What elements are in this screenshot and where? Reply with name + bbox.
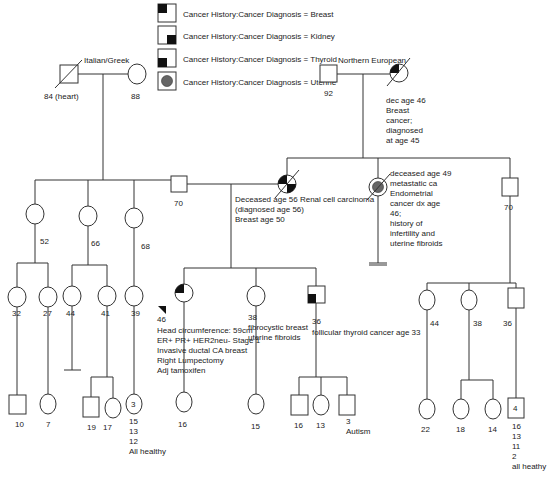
cousin-39: 39 xyxy=(125,286,143,395)
child-15: 15 xyxy=(248,394,264,431)
legend-label: Cancer History:Cancer Diagnosis = Kidney xyxy=(183,32,335,41)
svg-text:70: 70 xyxy=(504,203,513,212)
svg-text:38: 38 xyxy=(473,319,482,328)
svg-text:fibrocystic breast: fibrocystic breast xyxy=(248,323,309,332)
proband-46: 46 Head circumference: 59cm ER+ PR+ HER2… xyxy=(157,284,261,395)
svg-text:follicular thyroid cancer age: follicular thyroid cancer age 33 xyxy=(312,328,421,337)
svg-text:12: 12 xyxy=(129,437,138,446)
svg-text:68: 68 xyxy=(141,242,150,251)
child-10: 10 xyxy=(9,395,26,429)
legend-item-thyroid: Cancer History:Cancer Diagnosis = Thyroi… xyxy=(158,49,337,67)
svg-text:diagnosed: diagnosed xyxy=(386,126,423,135)
proband-arrow-icon xyxy=(158,306,166,314)
svg-text:all heathy: all heathy xyxy=(512,462,546,471)
svg-text:uterine fibroids: uterine fibroids xyxy=(248,333,300,342)
svg-text:Endometrial: Endometrial xyxy=(390,189,433,198)
legend-item-kidney: Cancer History:Cancer Diagnosis = Kidney xyxy=(158,26,335,44)
paternal-grandfather: 84 (heart) xyxy=(44,60,82,101)
svg-text:cancer dx age: cancer dx age xyxy=(390,199,441,208)
svg-text:38: 38 xyxy=(248,313,257,322)
legend: Cancer History:Cancer Diagnosis = Breast… xyxy=(158,4,337,90)
svg-text:11: 11 xyxy=(512,442,521,451)
svg-text:7: 7 xyxy=(46,420,51,429)
svg-text:cancer;: cancer; xyxy=(386,116,412,125)
paternal-grandmother: 88 xyxy=(128,64,146,101)
svg-text:13: 13 xyxy=(512,432,521,441)
svg-text:36: 36 xyxy=(503,319,512,328)
legend-item-breast: Cancer History:Cancer Diagnosis = Breast xyxy=(158,4,334,22)
cousin-38-maternal: 38 xyxy=(461,290,482,380)
svg-text:66: 66 xyxy=(91,239,100,248)
svg-text:19: 19 xyxy=(87,423,96,432)
svg-text:15: 15 xyxy=(251,422,260,431)
maternal-grandmother: dec age 46 Breast cancer; diagnosed at a… xyxy=(386,58,426,145)
cousin-44-no-children: 44 xyxy=(63,286,81,370)
cousin-44-maternal: 44 xyxy=(419,290,439,400)
svg-text:88: 88 xyxy=(131,92,140,101)
svg-text:Adj tamoxifen: Adj tamoxifen xyxy=(157,366,205,375)
child-3-autism: 3 Autism xyxy=(339,395,371,436)
uncle-70: 70 xyxy=(502,178,518,283)
svg-text:18: 18 xyxy=(456,425,465,434)
children-group-4: 4 16 13 11 2 all heathy xyxy=(508,398,546,471)
svg-text:70: 70 xyxy=(174,199,183,208)
children-group-3: 3 15 13 12 All healthy xyxy=(126,394,166,456)
aunt-66: 66 xyxy=(79,206,100,248)
svg-text:46;: 46; xyxy=(390,209,401,218)
svg-text:10: 10 xyxy=(15,420,24,429)
brother-36: 36 follicular thyroid cancer age 33 xyxy=(308,286,421,377)
legend-label: Cancer History:Cancer Diagnosis = Breast xyxy=(183,10,334,19)
svg-text:13: 13 xyxy=(316,421,325,430)
child-22: 22 xyxy=(419,399,435,434)
svg-text:52: 52 xyxy=(40,237,49,246)
child-17: 17 xyxy=(103,398,121,432)
svg-text:44: 44 xyxy=(430,319,439,328)
svg-text:13: 13 xyxy=(129,427,138,436)
father-70: 70 xyxy=(171,176,187,208)
child-18: 18 xyxy=(453,399,469,434)
child-19: 19 xyxy=(83,397,99,432)
aunt-deceased-49: deceased age 49 metastatic ca Endometria… xyxy=(367,169,452,265)
child-16-proband: 16 xyxy=(176,392,192,429)
svg-text:46: 46 xyxy=(157,315,166,324)
svg-text:history of: history of xyxy=(390,219,423,228)
svg-text:14: 14 xyxy=(488,425,497,434)
cousin-27: 27 xyxy=(39,287,57,395)
child-13-brother: 13 xyxy=(313,395,329,430)
aunt-68: 68 xyxy=(125,208,150,251)
svg-text:36: 36 xyxy=(312,317,321,326)
svg-text:deceased age 49: deceased age 49 xyxy=(390,169,452,178)
legend-label: Cancer History:Cancer Diagnosis = Uterin… xyxy=(183,78,337,87)
svg-text:3: 3 xyxy=(131,400,136,409)
svg-text:metastatic ca: metastatic ca xyxy=(390,179,438,188)
svg-text:16: 16 xyxy=(294,421,303,430)
mother-proband-parent: Deceased age 56 Renal cell carcinoma (di… xyxy=(235,170,375,224)
svg-text:3: 3 xyxy=(346,417,351,426)
svg-text:16: 16 xyxy=(178,420,187,429)
legend-item-uterine: Cancer History:Cancer Diagnosis = Uterin… xyxy=(158,72,337,90)
svg-text:All healthy: All healthy xyxy=(129,447,166,456)
svg-text:4: 4 xyxy=(513,404,518,413)
svg-text:Invasive ductal CA breast: Invasive ductal CA breast xyxy=(157,346,248,355)
sister-38: 38 fibrocystic breast uterine fibroids xyxy=(247,286,309,395)
child-7: 7 xyxy=(40,394,56,429)
svg-text:Breast age 50: Breast age 50 xyxy=(235,215,285,224)
svg-text:15: 15 xyxy=(129,417,138,426)
cousin-32: 32 xyxy=(8,287,26,395)
svg-text:dec age 46: dec age 46 xyxy=(386,96,426,105)
legend-label: Cancer History:Cancer Diagnosis = Thyroi… xyxy=(183,55,337,64)
svg-text:Breast: Breast xyxy=(386,106,410,115)
child-14: 14 xyxy=(485,399,501,434)
svg-text:84 (heart): 84 (heart) xyxy=(44,92,79,101)
svg-text:uterine fibroids: uterine fibroids xyxy=(390,239,442,248)
svg-text:Head circumference: 59cm: Head circumference: 59cm xyxy=(157,326,253,335)
svg-text:Deceased age 56 Renal cell car: Deceased age 56 Renal cell carcinoma xyxy=(235,195,375,204)
cousin-41: 41 xyxy=(98,286,116,377)
child-16-brother: 16 xyxy=(291,395,308,430)
svg-text:infertility and: infertility and xyxy=(390,229,435,238)
svg-text:16: 16 xyxy=(512,422,521,431)
svg-text:92: 92 xyxy=(324,89,333,98)
svg-text:(diagnosed age 56): (diagnosed age 56) xyxy=(235,205,304,214)
svg-text:Autism: Autism xyxy=(346,427,371,436)
svg-text:44: 44 xyxy=(66,309,75,318)
